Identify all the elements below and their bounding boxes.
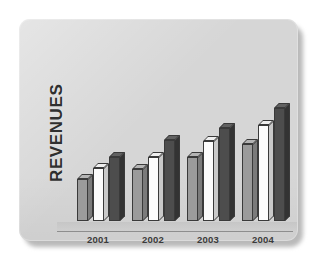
bar-front-face [132,169,143,221]
bar-front-face [109,157,120,221]
bar-side-face [175,135,180,221]
bar-group-2004 [242,19,291,231]
bar-2002-series-1 [132,169,143,221]
bar-side-face [198,152,203,221]
bar-2004-series-3 [274,108,285,221]
bar-2003-series-2 [203,141,214,221]
bar-group-2002 [132,19,181,231]
bar-front-face [203,141,214,221]
bar-2003-series-1 [187,157,198,221]
bar-2001-series-3 [109,157,120,221]
bar-front-face [164,140,175,221]
x-tick-label-2004: 2004 [233,234,293,245]
bar-group-2001 [77,19,126,231]
x-axis-baseline [57,231,293,232]
bar-front-face [187,157,198,221]
bar-side-face [88,174,93,221]
bar-side-face [253,139,258,221]
bar-side-face [214,136,219,221]
bar-side-face [159,152,164,221]
bar-front-face [258,125,269,221]
chart-figure: 2001200220032004 REVENUES [0,0,321,257]
bar-front-face [219,128,230,221]
bar-front-face [274,108,285,221]
bar-group-2003 [187,19,236,231]
x-tick-label-2002: 2002 [123,234,183,245]
bar-2002-series-3 [164,140,175,221]
x-tick-label-2001: 2001 [68,234,128,245]
bar-side-face [285,103,290,221]
bar-front-face [93,168,104,221]
bar-2001-series-2 [93,168,104,221]
bar-front-face [148,157,159,221]
y-axis-title: REVENUES [47,32,67,182]
bar-2003-series-3 [219,128,230,221]
bar-side-face [143,164,148,221]
bar-front-face [242,144,253,221]
bar-2002-series-2 [148,157,159,221]
bar-side-face [104,163,109,221]
bar-side-face [269,120,274,221]
bar-2001-series-1 [77,179,88,221]
bar-side-face [230,123,235,221]
x-tick-label-2003: 2003 [178,234,238,245]
bar-2004-series-1 [242,144,253,221]
bar-side-face [120,152,125,221]
bar-front-face [77,179,88,221]
bar-2004-series-2 [258,125,269,221]
